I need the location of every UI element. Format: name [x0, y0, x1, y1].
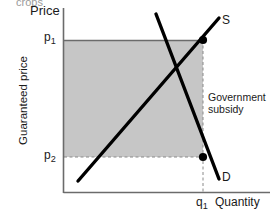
- y-tick-p1-subscript: 1: [51, 36, 56, 46]
- demand-curve-label: D: [222, 171, 231, 184]
- y-tick-p2-base: p: [44, 148, 51, 162]
- y-tick-p1: p1: [44, 31, 56, 47]
- government-subsidy-annotation: Government subsidy: [208, 92, 270, 116]
- y-tick-p2: p2: [44, 149, 56, 165]
- guaranteed-price-subsidy-diagram: crops Price Guaranteed price Quantity p1…: [0, 0, 271, 213]
- government-subsidy-region: [64, 40, 203, 157]
- y-axis-title: Guaranteed price: [17, 40, 30, 160]
- x-axis-label: Quantity: [215, 196, 260, 209]
- y-tick-p2-subscript: 2: [51, 154, 56, 164]
- demand-point-marker: [199, 153, 207, 161]
- y-tick-p1-base: p: [44, 30, 51, 44]
- price-axis-label: Price: [30, 4, 60, 19]
- supply-point-marker: [199, 36, 207, 44]
- x-tick-q1-subscript: 1: [203, 201, 208, 211]
- x-tick-q1-base: q: [196, 195, 203, 209]
- supply-curve-label: S: [222, 14, 230, 27]
- x-tick-q1: q1: [196, 196, 208, 212]
